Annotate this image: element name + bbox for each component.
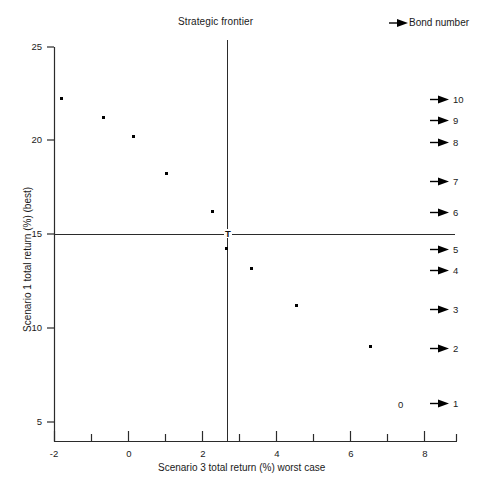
y-tick-label-25: 25 <box>22 41 42 52</box>
data-point-bond-7[interactable] <box>165 172 168 175</box>
bond-legend-entry-1[interactable]: 1 <box>430 398 458 409</box>
bond-legend-label: 8 <box>453 137 458 148</box>
data-point-bond-4[interactable] <box>250 267 253 270</box>
arrow-right-icon <box>430 176 450 187</box>
bond-legend-label: 5 <box>453 244 458 255</box>
data-point-bond-3[interactable] <box>295 304 298 307</box>
strategic-frontier-horizontal-line <box>55 234 455 235</box>
legend-label-bond-number: Bond number <box>409 17 469 28</box>
data-point-bond-5[interactable] <box>225 247 228 250</box>
arrow-right-icon <box>430 115 450 126</box>
bond-legend-entry-3[interactable]: 3 <box>430 304 458 315</box>
arrow-right-icon <box>430 244 450 255</box>
arrow-right-icon <box>430 265 450 276</box>
x-tick-label-6: 6 <box>339 448 363 459</box>
x-tick-label-8: 8 <box>413 448 437 459</box>
arrow-right-icon <box>430 398 450 409</box>
bond-legend-entry-7[interactable]: 7 <box>430 176 458 187</box>
y-tick-label-15: 15 <box>22 228 42 239</box>
x-tick-label-4: 4 <box>265 448 289 459</box>
bond-legend-label: 4 <box>453 265 458 276</box>
arrow-right-icon <box>430 207 450 218</box>
zero-annotation: 0 <box>398 399 403 410</box>
bond-legend-entry-8[interactable]: 8 <box>430 137 458 148</box>
chart-axes <box>0 0 482 502</box>
data-point-bond-8[interactable] <box>132 135 135 138</box>
bond-legend-label: 7 <box>453 176 458 187</box>
strategic-frontier-vertical-line <box>227 40 228 442</box>
arrow-right-icon <box>430 137 450 148</box>
arrow-right-icon <box>430 94 450 105</box>
y-axis-title: Scenario 1 total return (%) (best) <box>22 187 33 332</box>
bond-legend-entry-9[interactable]: 9 <box>430 115 458 126</box>
bond-legend-label: 9 <box>453 115 458 126</box>
legend-arrow-icon <box>389 18 409 28</box>
arrow-right-icon <box>430 343 450 354</box>
bond-legend-entry-4[interactable]: 4 <box>430 265 458 276</box>
bond-legend-label: 10 <box>453 94 464 105</box>
data-point-bond-6[interactable] <box>211 210 214 213</box>
bond-legend-label: 3 <box>453 304 458 315</box>
y-tick-label-20: 20 <box>22 134 42 145</box>
frontier-intersection-marker: T <box>224 229 232 238</box>
x-tick-label-2: 2 <box>191 448 215 459</box>
bond-legend-entry-10[interactable]: 10 <box>430 94 464 105</box>
bond-legend-entry-5[interactable]: 5 <box>430 244 458 255</box>
arrow-right-icon <box>430 304 450 315</box>
data-point-bond-10[interactable] <box>60 97 63 100</box>
scatter-chart-figure: T Strategic frontier Bond number Scenari… <box>0 0 482 502</box>
bond-legend-entry-6[interactable]: 6 <box>430 207 458 218</box>
bond-legend-label: 1 <box>453 398 458 409</box>
bond-legend-entry-2[interactable]: 2 <box>430 343 458 354</box>
chart-title: Strategic frontier <box>178 16 253 27</box>
x-tick-label-minus2: -2 <box>42 448 66 459</box>
y-tick-label-10: 10 <box>22 322 42 333</box>
y-tick-label-5: 5 <box>22 416 42 427</box>
x-tick-label-0: 0 <box>117 448 141 459</box>
data-point-bond-2[interactable] <box>369 345 372 348</box>
bond-legend-label: 6 <box>453 207 458 218</box>
bond-legend-label: 2 <box>453 343 458 354</box>
x-axis-title: Scenario 3 total return (%) worst case <box>158 462 325 473</box>
data-point-bond-9[interactable] <box>102 116 105 119</box>
